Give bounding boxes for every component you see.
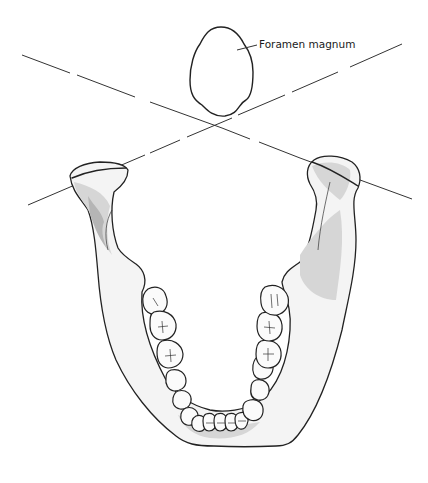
foramen-magnum-outline [190,27,253,116]
tooth [150,311,176,340]
mandible-diagram: Foramen magnum [0,0,428,483]
foramen-magnum-label: Foramen magnum [259,38,355,50]
tooth [243,400,263,421]
tooth [173,391,191,410]
tooth [166,370,186,391]
tooth [157,340,183,368]
mandible [70,156,360,447]
tooth [261,285,289,315]
tooth [251,380,269,401]
